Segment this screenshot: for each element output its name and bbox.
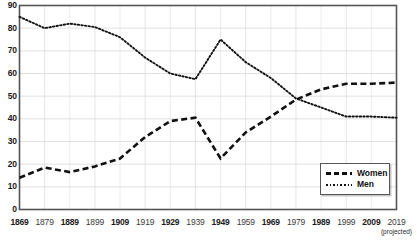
legend-item-label: Men (357, 180, 374, 189)
legend-dotted-line-icon (326, 184, 352, 186)
legend-item-women[interactable]: Women (326, 168, 382, 179)
x-axis-note: (projected) (367, 229, 417, 236)
chart-legend: WomenMen (320, 163, 390, 195)
legend-dashed-line-icon (326, 172, 352, 175)
legend-item-label: Women (357, 169, 388, 178)
legend-item-men[interactable]: Men (326, 179, 382, 190)
x-axis-tick-label: 2019 (377, 218, 417, 227)
